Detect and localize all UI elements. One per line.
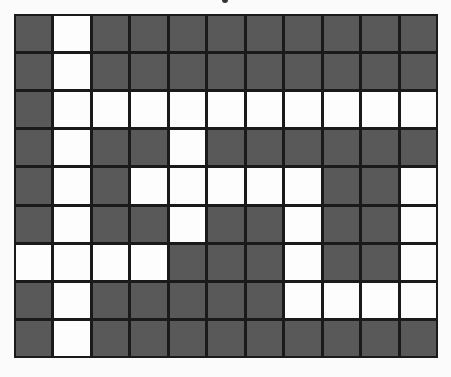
grid-cell-r3-c2[interactable] (93, 130, 128, 165)
grid-cell-r0-c4[interactable] (170, 16, 205, 51)
grid-cell-r0-c6[interactable] (247, 16, 282, 51)
grid-cell-r1-c7[interactable] (285, 54, 320, 89)
grid-cell-r4-c4[interactable] (170, 168, 205, 203)
grid-cell-r3-c0[interactable] (16, 130, 51, 165)
grid-cell-r8-c5[interactable] (208, 321, 243, 356)
grid-cell-r3-c8[interactable] (324, 130, 359, 165)
grid-cell-r7-c10[interactable] (401, 283, 436, 318)
grid-cell-r4-c5[interactable] (208, 168, 243, 203)
grid-cell-r4-c3[interactable] (131, 168, 166, 203)
grid-cell-r7-c1[interactable] (54, 283, 89, 318)
grid-cell-r6-c4[interactable] (170, 245, 205, 280)
grid-cell-r6-c5[interactable] (208, 245, 243, 280)
grid-cell-r3-c7[interactable] (285, 130, 320, 165)
grid-cell-r1-c8[interactable] (324, 54, 359, 89)
grid-cell-r0-c3[interactable] (131, 16, 166, 51)
grid-cell-r4-c7[interactable] (285, 168, 320, 203)
grid-cell-r8-c0[interactable] (16, 321, 51, 356)
grid-cell-r2-c6[interactable] (247, 92, 282, 127)
grid-cell-r8-c4[interactable] (170, 321, 205, 356)
grid-cell-r6-c7[interactable] (285, 245, 320, 280)
grid-cell-r7-c6[interactable] (247, 283, 282, 318)
grid-cell-r5-c0[interactable] (16, 207, 51, 242)
grid-cell-r5-c5[interactable] (208, 207, 243, 242)
grid-cell-r7-c5[interactable] (208, 283, 243, 318)
grid-cell-r7-c9[interactable] (362, 283, 397, 318)
grid-cell-r4-c9[interactable] (362, 168, 397, 203)
grid-cell-r0-c9[interactable] (362, 16, 397, 51)
grid-cell-r2-c7[interactable] (285, 92, 320, 127)
grid-cell-r8-c7[interactable] (285, 321, 320, 356)
grid-cell-r1-c10[interactable] (401, 54, 436, 89)
grid-cell-r7-c4[interactable] (170, 283, 205, 318)
grid-cell-r8-c8[interactable] (324, 321, 359, 356)
grid-cell-r8-c9[interactable] (362, 321, 397, 356)
grid-cell-r2-c8[interactable] (324, 92, 359, 127)
grid-cell-r2-c3[interactable] (131, 92, 166, 127)
grid-cell-r1-c0[interactable] (16, 54, 51, 89)
grid-cell-r6-c8[interactable] (324, 245, 359, 280)
grid-cell-r0-c0[interactable] (16, 16, 51, 51)
grid-cell-r1-c1[interactable] (54, 54, 89, 89)
grid-cell-r8-c2[interactable] (93, 321, 128, 356)
grid-cell-r6-c6[interactable] (247, 245, 282, 280)
grid-cell-r6-c2[interactable] (93, 245, 128, 280)
grid-cell-r3-c4[interactable] (170, 130, 205, 165)
grid-cell-r2-c0[interactable] (16, 92, 51, 127)
grid-cell-r0-c7[interactable] (285, 16, 320, 51)
grid-cell-r3-c9[interactable] (362, 130, 397, 165)
grid-cell-r1-c3[interactable] (131, 54, 166, 89)
grid-cell-r5-c8[interactable] (324, 207, 359, 242)
grid-cell-r6-c9[interactable] (362, 245, 397, 280)
grid-cell-r0-c5[interactable] (208, 16, 243, 51)
grid-cell-r0-c8[interactable] (324, 16, 359, 51)
grid-cell-r8-c6[interactable] (247, 321, 282, 356)
grid-cell-r2-c1[interactable] (54, 92, 89, 127)
grid-cell-r2-c10[interactable] (401, 92, 436, 127)
grid-cell-r8-c10[interactable] (401, 321, 436, 356)
grid-cell-r5-c2[interactable] (93, 207, 128, 242)
grid-cell-r0-c10[interactable] (401, 16, 436, 51)
grid-cell-r3-c5[interactable] (208, 130, 243, 165)
grid-cell-r4-c1[interactable] (54, 168, 89, 203)
grid-cell-r7-c2[interactable] (93, 283, 128, 318)
grid-cell-r1-c6[interactable] (247, 54, 282, 89)
grid-cell-r1-c4[interactable] (170, 54, 205, 89)
grid-cell-r1-c2[interactable] (93, 54, 128, 89)
grid-cell-r6-c0[interactable] (16, 245, 51, 280)
grid-cell-r5-c10[interactable] (401, 207, 436, 242)
grid-cell-r5-c4[interactable] (170, 207, 205, 242)
grid-cell-r4-c2[interactable] (93, 168, 128, 203)
grid-cell-r8-c3[interactable] (131, 321, 166, 356)
grid-cell-r2-c2[interactable] (93, 92, 128, 127)
grid-cell-r5-c3[interactable] (131, 207, 166, 242)
grid-cell-r2-c4[interactable] (170, 92, 205, 127)
grid-cell-r0-c1[interactable] (54, 16, 89, 51)
grid-cell-r3-c3[interactable] (131, 130, 166, 165)
grid-cell-r1-c5[interactable] (208, 54, 243, 89)
grid-cell-r6-c1[interactable] (54, 245, 89, 280)
grid-cell-r6-c3[interactable] (131, 245, 166, 280)
grid-cell-r7-c7[interactable] (285, 283, 320, 318)
grid-cell-r4-c0[interactable] (16, 168, 51, 203)
grid-cell-r5-c9[interactable] (362, 207, 397, 242)
grid-cell-r3-c6[interactable] (247, 130, 282, 165)
grid-cell-r2-c5[interactable] (208, 92, 243, 127)
grid-cell-r4-c8[interactable] (324, 168, 359, 203)
grid-cell-r7-c3[interactable] (131, 283, 166, 318)
grid-cell-r8-c1[interactable] (54, 321, 89, 356)
grid-cell-r1-c9[interactable] (362, 54, 397, 89)
grid-cell-r4-c10[interactable] (401, 168, 436, 203)
grid-cell-r5-c6[interactable] (247, 207, 282, 242)
grid-cell-r5-c7[interactable] (285, 207, 320, 242)
grid-cell-r0-c2[interactable] (93, 16, 128, 51)
top-edge-mark (222, 0, 228, 3)
grid-cell-r4-c6[interactable] (247, 168, 282, 203)
grid-cell-r6-c10[interactable] (401, 245, 436, 280)
grid-cell-r5-c1[interactable] (54, 207, 89, 242)
grid-cell-r7-c0[interactable] (16, 283, 51, 318)
grid-cell-r3-c1[interactable] (54, 130, 89, 165)
grid-cell-r2-c9[interactable] (362, 92, 397, 127)
grid-cell-r7-c8[interactable] (324, 283, 359, 318)
grid-cell-r3-c10[interactable] (401, 130, 436, 165)
